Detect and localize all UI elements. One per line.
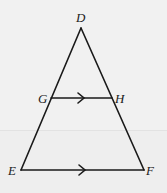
- label-f: F: [145, 163, 155, 178]
- label-h: H: [114, 91, 125, 106]
- side-df: [81, 28, 144, 170]
- triangle-diagram: D G H E F: [0, 0, 167, 193]
- label-d: D: [75, 10, 86, 25]
- label-e: E: [7, 163, 16, 178]
- label-g: G: [38, 91, 48, 106]
- side-de: [21, 28, 81, 170]
